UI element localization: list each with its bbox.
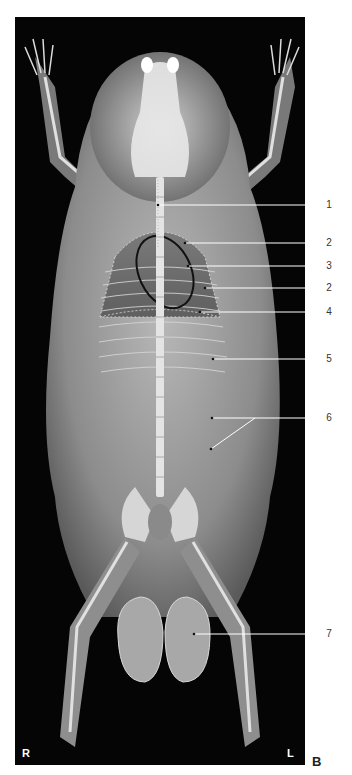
annotation-lines xyxy=(0,0,352,775)
label-4: 4 xyxy=(322,306,336,317)
label-3: 3 xyxy=(322,260,336,271)
label-7: 7 xyxy=(322,628,336,639)
label-5: 5 xyxy=(322,353,336,364)
label-2-upper: 2 xyxy=(322,237,336,248)
orientation-left-marker: L xyxy=(287,747,294,759)
label-2-lower: 2 xyxy=(322,282,336,293)
orientation-right-marker: R xyxy=(22,747,30,759)
label-6: 6 xyxy=(322,412,336,423)
leader-line-6b xyxy=(211,418,255,449)
panel-letter: B xyxy=(312,754,321,769)
label-1: 1 xyxy=(322,199,336,210)
